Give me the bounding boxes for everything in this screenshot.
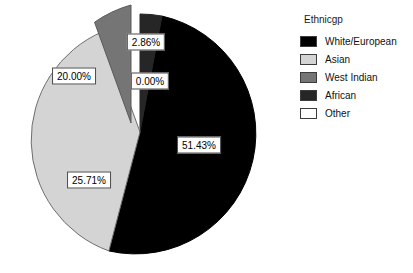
slice-label-other: 0.00% xyxy=(131,73,169,90)
legend-label-white-european: White/European xyxy=(325,36,397,47)
legend-label-other: Other xyxy=(325,108,350,119)
legend-item-white-european[interactable]: White/European xyxy=(300,32,410,50)
legend-item-other[interactable]: Other xyxy=(300,104,410,122)
legend: Ethnicgp White/European Asian West India… xyxy=(300,14,410,122)
chart-plot-area: 2.86% 0.00% 20.00% 51.43% 25.71% xyxy=(0,0,290,273)
slice-label-african: 2.86% xyxy=(127,34,165,51)
legend-label-asian: Asian xyxy=(325,54,350,65)
legend-swatch-west-indian xyxy=(300,72,317,83)
legend-item-african[interactable]: African xyxy=(300,86,410,104)
slice-label-asian: 25.71% xyxy=(67,172,111,189)
legend-title: Ethnicgp xyxy=(304,14,410,25)
legend-swatch-asian xyxy=(300,54,317,65)
legend-item-west-indian[interactable]: West Indian xyxy=(300,68,410,86)
slice-label-west-indian: 20.00% xyxy=(52,68,96,85)
legend-swatch-african xyxy=(300,90,317,101)
legend-item-asian[interactable]: Asian xyxy=(300,50,410,68)
legend-swatch-white-european xyxy=(300,36,317,47)
legend-swatch-other xyxy=(300,108,317,119)
pie-chart-figure: 2.86% 0.00% 20.00% 51.43% 25.71% Ethnicg… xyxy=(0,0,413,273)
legend-label-african: African xyxy=(325,90,356,101)
slice-label-white-european: 51.43% xyxy=(177,137,221,154)
legend-label-west-indian: West Indian xyxy=(325,72,378,83)
